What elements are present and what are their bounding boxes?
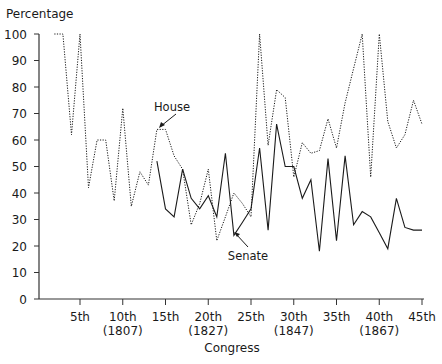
x-tick-label: 45th [408,310,436,324]
y-tick-label: 60 [12,134,27,148]
y-tick-label: 80 [12,81,27,95]
house-label: House [154,100,190,114]
x-tick-year: (1827) [188,324,228,338]
y-tick-label: 100 [4,28,27,42]
y-tick-label: 50 [12,160,27,174]
x-tick-label: 20th [194,310,222,324]
x-tick-label: 5th [70,310,90,324]
y-axis-title: Percentage [6,7,74,21]
y-tick-label: 10 [12,266,27,280]
x-tick-label: 25th [237,310,265,324]
senate-line [157,124,422,251]
senate-label: Senate [228,249,268,263]
y-tick-label: 0 [19,293,27,307]
x-tick-label: 35th [323,310,351,324]
x-tick-label: 10th [109,310,137,324]
y-tick-label: 30 [12,213,27,227]
plot-area [54,34,422,251]
y-axis: 0102030405060708090100 [4,28,39,307]
y-tick-label: 40 [12,187,27,201]
y-tick-label: 70 [12,107,27,121]
x-axis-title: Congress [204,341,260,355]
house-line [54,34,422,241]
x-tick-label: 30th [280,310,308,324]
y-tick-label: 90 [12,54,27,68]
y-tick-label: 20 [12,240,27,254]
series-annotations: House Senate [154,100,268,263]
x-tick-year: (1847) [274,324,314,338]
x-tick-label: 40th [365,310,393,324]
x-tick-year: (1807) [103,324,143,338]
x-tick-label: 15th [152,310,180,324]
x-axis: 5th10th(1807)15th20th(1827)25th30th(1847… [70,299,436,338]
x-tick-year: (1867) [359,324,399,338]
chart-canvas: Percentage 0102030405060708090100 5th10t… [0,0,442,364]
